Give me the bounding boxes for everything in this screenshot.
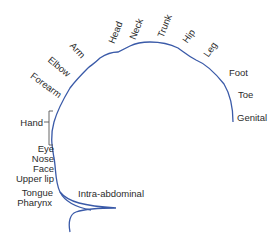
label-upper-lip: Upper lip <box>16 173 54 184</box>
label-hand: Hand <box>20 117 43 128</box>
label-toe: Toe <box>238 89 253 100</box>
label-intra-abdominal: Intra-abdominal <box>78 188 144 199</box>
label-foot: Foot <box>229 67 248 78</box>
label-pharynx: Pharynx <box>17 197 52 208</box>
homunculus-diagram: Head Neck Trunk Hip Leg Foot Toe Genital… <box>0 0 280 234</box>
label-genital: Genital <box>237 112 267 123</box>
